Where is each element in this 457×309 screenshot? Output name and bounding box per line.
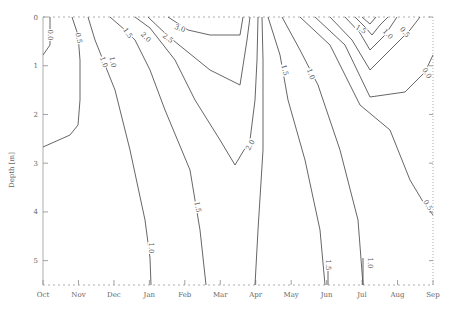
contour-line — [315, 17, 433, 97]
contour-label: 1.5 — [324, 259, 332, 270]
x-tick-label: Jun — [320, 291, 333, 299]
contour-label: 2.5 — [161, 32, 175, 45]
x-tick-label: May — [284, 291, 299, 299]
y-tick-label: 5 — [34, 257, 38, 265]
contour-label: 1.0 — [147, 242, 155, 253]
x-tick-label: Apr — [248, 291, 263, 299]
x-tick-label: Aug — [390, 291, 406, 299]
x-tick-label: Dec — [107, 291, 121, 299]
x-tick-label: Nov — [71, 291, 85, 299]
contour-label: 2.0 — [139, 31, 153, 45]
x-tick-label: Jan — [143, 291, 156, 299]
contour-line — [362, 17, 376, 24]
y-axis-title: Depth [m] — [8, 152, 16, 188]
contour-chart: 012345 OctNovDecJanFebMarAprMayJunJulAug… — [0, 0, 457, 309]
contour-label: 0.5 — [398, 25, 411, 39]
contour-label: 1.5 — [121, 26, 134, 40]
contour-label: 1.0 — [366, 257, 374, 268]
contour-line — [88, 17, 151, 285]
contour-label: 0.0 — [420, 66, 432, 80]
contour-label: 0.5 — [74, 32, 84, 44]
x-tick-label: Sep — [426, 291, 440, 299]
contour-label: 2.0 — [244, 138, 256, 152]
y-tick-label: 0 — [34, 14, 38, 22]
y-tick-label: 1 — [34, 62, 38, 70]
x-axis-ticks: OctNovDecJanFebMarAprMayJunJulAugSep — [37, 280, 440, 299]
contour-label: 1.5 — [279, 64, 290, 77]
contour-label: 0.5 — [421, 198, 433, 212]
contour-line — [255, 17, 263, 285]
x-tick-label: Mar — [213, 291, 228, 299]
x-tick-label: Feb — [178, 291, 192, 299]
contour-label: 1.5 — [354, 23, 368, 35]
x-tick-label: Oct — [37, 291, 50, 299]
contour-label: 1.5 — [193, 201, 203, 213]
contour-label: 0.0 — [46, 29, 54, 40]
contour-labels: 0.00.51.01.52.02.53.02.01.51.01.01.51.51… — [46, 23, 435, 271]
contour-label: 1.0 — [381, 28, 395, 42]
y-tick-label: 3 — [34, 160, 38, 168]
contour-line — [300, 17, 433, 215]
y-axis-ticks: 012345 — [34, 14, 433, 266]
y-tick-label: 2 — [34, 111, 38, 119]
y-tick-label: 4 — [34, 208, 39, 216]
contour-line — [268, 17, 325, 285]
x-tick-label: Jul — [356, 291, 367, 299]
contour-line — [110, 17, 206, 285]
contour-line — [148, 17, 250, 85]
